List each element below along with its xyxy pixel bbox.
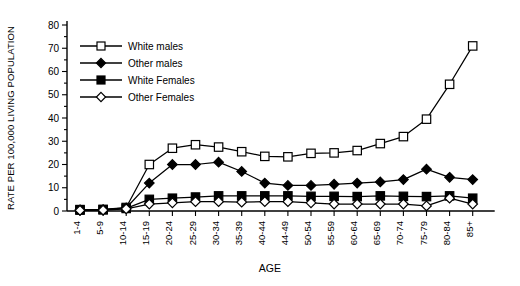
x-tick-label: 85+ [464, 221, 475, 238]
legend-marker-filled-diamond [96, 58, 105, 67]
data-point-marker [191, 141, 199, 149]
x-tick-label: 15-19 [140, 221, 151, 245]
line-chart: RATE PER 100,000 LIVING POPULATION010203… [0, 0, 520, 286]
series-line-white-females [80, 196, 473, 210]
y-tick-label: 60 [48, 66, 60, 77]
x-tick-label: 20-24 [163, 221, 174, 245]
data-point-marker [261, 152, 269, 160]
x-axis-title: AGE [259, 262, 281, 274]
data-point-marker [283, 181, 293, 191]
x-tick-label: 30-34 [210, 221, 221, 245]
y-tick-label: 50 [48, 89, 60, 100]
series-line-other-males [80, 162, 473, 210]
data-point-marker [260, 178, 270, 188]
data-point-marker [422, 164, 432, 174]
x-tick-label: 75-79 [418, 221, 429, 245]
data-point-marker [307, 149, 315, 157]
data-point-marker [306, 181, 316, 191]
data-point-marker [284, 153, 292, 161]
legend-marker-open-diamond [96, 92, 105, 101]
data-point-marker [330, 149, 338, 157]
x-tick-label: 10-14 [117, 221, 128, 245]
data-point-marker [353, 146, 361, 154]
x-tick-label: 44-49 [279, 221, 290, 245]
data-point-marker [376, 139, 384, 147]
y-tick-label: 70 [48, 43, 60, 54]
x-tick-label: 80-84 [441, 221, 452, 245]
x-tick-label: 65-69 [371, 221, 382, 245]
data-point-marker [399, 132, 407, 140]
y-tick-label: 80 [48, 20, 60, 31]
legend-label: White males [128, 41, 183, 52]
x-tick-label: 55-59 [325, 221, 336, 245]
data-point-marker [214, 157, 224, 167]
x-tick-label: 5-9 [94, 221, 105, 235]
data-point-marker [469, 42, 477, 50]
x-tick-label: 35-39 [233, 221, 244, 245]
data-point-marker [352, 178, 362, 188]
data-point-marker [422, 115, 430, 123]
data-point-marker [422, 201, 432, 211]
data-point-marker [145, 160, 153, 168]
x-tick-label: 50-54 [302, 221, 313, 245]
data-point-marker [468, 175, 478, 185]
legend-label: Other Females [128, 92, 194, 103]
x-tick-label: 40-44 [256, 221, 267, 245]
data-point-marker [422, 192, 430, 200]
data-point-marker [168, 144, 176, 152]
x-tick-label: 70-74 [394, 221, 405, 245]
y-tick-label: 10 [48, 182, 60, 193]
legend-marker-open-square [97, 42, 105, 50]
x-tick-label: 25-29 [187, 221, 198, 245]
y-axis-title: RATE PER 100,000 LIVING POPULATION [5, 26, 16, 210]
data-point-marker [445, 80, 453, 88]
legend-marker-filled-square [97, 76, 105, 84]
y-tick-label: 30 [48, 136, 60, 147]
y-tick-label: 0 [53, 206, 59, 217]
legend-label: White Females [128, 75, 195, 86]
data-point-marker [191, 160, 201, 170]
data-point-marker [445, 172, 455, 182]
data-point-marker [376, 177, 386, 187]
y-tick-label: 40 [48, 113, 60, 124]
data-point-marker [214, 143, 222, 151]
data-point-marker [329, 179, 339, 189]
series-line-other-females [80, 198, 473, 210]
x-tick-label: 60-64 [348, 221, 359, 245]
data-point-marker [237, 167, 247, 177]
x-tick-label: 1-4 [71, 221, 82, 235]
data-point-marker [238, 148, 246, 156]
chart-container: RATE PER 100,000 LIVING POPULATION010203… [0, 0, 520, 286]
data-point-marker [399, 175, 409, 185]
legend-label: Other males [128, 58, 182, 69]
y-tick-label: 20 [48, 159, 60, 170]
series-line-white-males [80, 46, 473, 210]
